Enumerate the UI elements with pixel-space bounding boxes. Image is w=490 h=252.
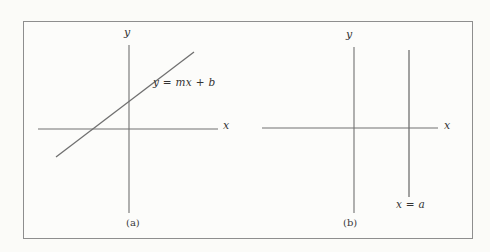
- panel-a-sloped-line: [56, 52, 194, 157]
- panel-a-y-axis-label: y: [124, 27, 130, 38]
- figure: y x y = mx + b (a) y x x = a (b): [0, 0, 490, 252]
- panel-a-caption: (a): [126, 218, 140, 228]
- panel-b-line-equation-label: x = a: [396, 199, 425, 210]
- panel-b-y-axis-label: y: [346, 29, 352, 40]
- panel-b-caption: (b): [343, 218, 357, 228]
- panel-b-x-axis-label: x: [444, 120, 450, 131]
- panel-a-x-axis-label: x: [223, 120, 229, 131]
- axes-layer: [0, 0, 490, 252]
- panel-a-line-equation-label: y = mx + b: [153, 77, 215, 88]
